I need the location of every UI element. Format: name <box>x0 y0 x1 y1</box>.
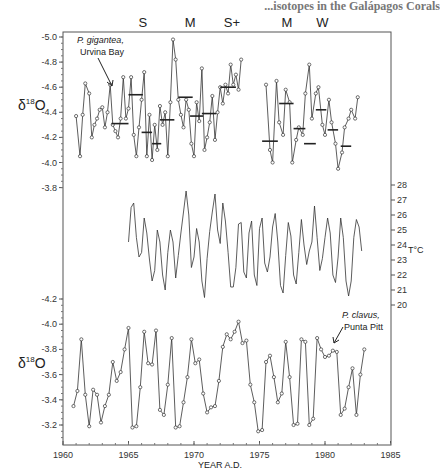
data-point <box>211 94 214 97</box>
annotation-line1: P. gigantea, <box>77 35 124 45</box>
data-point <box>200 67 203 70</box>
data-point <box>278 121 281 124</box>
annotation-pgigantea: P. gigantea, Urvina Bay <box>77 35 125 86</box>
data-point <box>249 383 252 386</box>
data-point <box>177 98 180 101</box>
data-point <box>158 408 161 411</box>
data-point <box>150 158 153 161</box>
data-point <box>316 336 319 339</box>
data-point <box>101 106 104 109</box>
data-point <box>174 426 177 429</box>
data-point <box>317 86 320 89</box>
ytick-label: -3.2 <box>41 420 57 430</box>
data-point <box>88 92 91 95</box>
event-label: S+ <box>224 15 240 30</box>
data-point <box>217 379 220 382</box>
data-point <box>158 104 161 107</box>
data-point <box>198 358 201 361</box>
data-point <box>75 114 78 117</box>
data-point <box>209 406 212 409</box>
data-point <box>291 161 294 164</box>
data-point <box>143 71 146 74</box>
data-point <box>312 417 315 420</box>
data-point <box>206 136 209 139</box>
data-point <box>99 421 102 424</box>
ytick-label: -4.0 <box>41 319 57 329</box>
data-point <box>81 113 84 116</box>
data-point <box>95 393 98 396</box>
data-point <box>253 401 256 404</box>
data-point <box>321 123 324 126</box>
data-point <box>103 405 106 408</box>
data-point <box>103 126 106 129</box>
data-point <box>331 349 334 352</box>
data-point <box>363 348 366 351</box>
data-point <box>347 386 350 389</box>
data-point <box>221 102 224 105</box>
data-point <box>343 126 346 129</box>
temperature-tick-label: 27 <box>397 195 407 205</box>
ylabel-top: δ18O <box>18 97 46 113</box>
data-point <box>335 350 338 353</box>
data-point <box>131 426 134 429</box>
data-point <box>186 376 189 379</box>
data-point <box>334 142 337 145</box>
data-point <box>226 92 229 95</box>
data-point <box>281 133 284 136</box>
data-point <box>139 386 142 389</box>
data-point <box>261 428 264 431</box>
data-point <box>343 407 346 410</box>
data-point <box>229 338 232 341</box>
temperature-tick-label: 26 <box>397 210 407 220</box>
data-point <box>154 329 157 332</box>
data-point <box>174 58 177 61</box>
data-point <box>308 423 311 426</box>
data-point <box>93 123 96 126</box>
data-point <box>268 354 271 357</box>
data-point <box>178 425 181 428</box>
data-point <box>264 83 267 86</box>
data-point <box>208 121 211 124</box>
xlabel: YEAR A.D. <box>198 460 242 470</box>
data-point <box>213 138 216 141</box>
data-point <box>84 82 87 85</box>
data-point <box>156 148 159 151</box>
data-point <box>124 117 127 120</box>
data-point <box>224 83 227 86</box>
ytick-label: -4.2 <box>41 132 57 142</box>
data-point <box>190 142 193 145</box>
xtick-label: 1975 <box>249 450 269 460</box>
data-point <box>327 354 330 357</box>
ytick-label: -3.8 <box>41 344 57 354</box>
data-point <box>268 148 271 151</box>
data-point <box>161 123 164 126</box>
data-point <box>78 155 81 158</box>
data-point <box>206 411 209 414</box>
bottom-series-pclavus <box>72 320 366 433</box>
data-point <box>98 108 101 111</box>
arrow-icon <box>333 327 343 343</box>
annotation-pclavus: P. clavus, Punta Pitt <box>333 310 384 343</box>
data-point <box>276 401 279 404</box>
xtick-label: 1970 <box>184 450 204 460</box>
data-point <box>264 360 267 363</box>
data-point <box>119 117 122 120</box>
annotation-line1: P. clavus, <box>342 310 380 320</box>
data-point <box>221 345 224 348</box>
data-point <box>135 425 138 428</box>
data-point <box>295 138 298 141</box>
data-point <box>304 340 307 343</box>
middle-series-temperature <box>129 191 362 298</box>
ylabel-bottom: δ18O <box>18 355 46 371</box>
ytick-label: -3.8 <box>41 183 57 193</box>
data-point <box>347 117 350 120</box>
data-point <box>319 348 322 351</box>
data-point <box>169 101 172 104</box>
data-point <box>182 126 185 129</box>
data-point <box>216 111 219 114</box>
ytick-label: -4.6 <box>41 82 57 92</box>
xtick-label: 1960 <box>53 450 73 460</box>
ytick-label: -3.6 <box>41 370 57 380</box>
data-point <box>140 98 143 101</box>
data-point <box>72 405 75 408</box>
